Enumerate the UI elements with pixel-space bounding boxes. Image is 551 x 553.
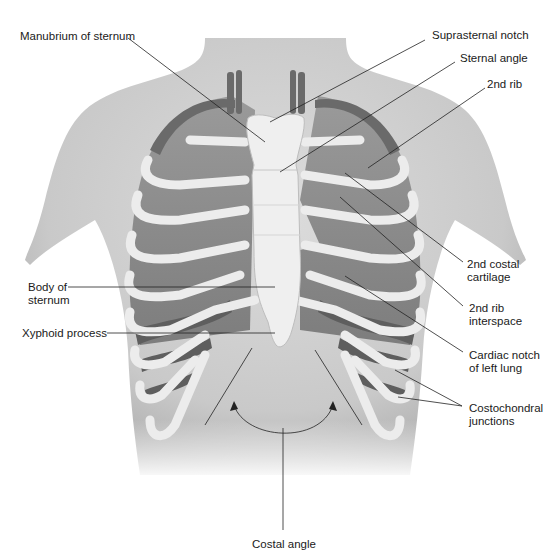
label-2nd-rib: 2nd rib	[487, 78, 522, 91]
label-suprasternal-notch: Suprasternal notch	[432, 29, 529, 42]
label-2nd-rib-interspace: 2nd rib interspace	[469, 302, 522, 328]
label-costal-angle: Costal angle	[252, 538, 316, 551]
label-body-of-sternum: Body of sternum	[28, 281, 70, 307]
label-costochondral-junctions: Costochondral junctions	[469, 402, 543, 428]
label-manubrium-of-sternum: Manubrium of sternum	[20, 30, 135, 43]
label-xyphoid-process: Xyphoid process	[22, 327, 107, 340]
label-sternal-angle: Sternal angle	[460, 52, 528, 65]
label-cardiac-notch: Cardiac notch of left lung	[469, 349, 540, 375]
label-2nd-costal-cartilage: 2nd costal cartilage	[467, 258, 519, 284]
